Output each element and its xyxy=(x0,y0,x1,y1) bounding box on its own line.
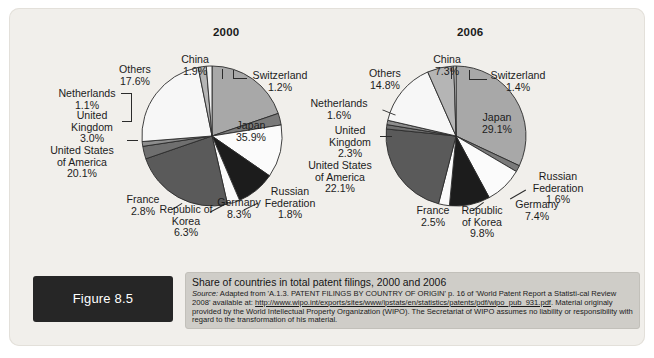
label-others-2006: Others 14.8% xyxy=(355,68,415,91)
figure-label-box: Figure 8.5 xyxy=(33,276,173,322)
source-prefix: Source: xyxy=(192,289,218,298)
label-switzerland-2000: Switzerland 1.2% xyxy=(241,70,319,93)
figure-panel: 2000 xyxy=(9,8,645,346)
label-japan-2006: Japan 29.1% xyxy=(471,112,523,135)
leader-switzerland-2000-v xyxy=(233,70,234,79)
label-others-2000: Others 17.6% xyxy=(105,64,165,87)
label-republic-of-korea-2000: Republic of Korea 6.3% xyxy=(155,204,217,239)
label-russian-federation-2006: Russian Federation 1.6% xyxy=(525,171,591,206)
label-japan-2000: Japan 35.9% xyxy=(225,120,277,143)
label-netherlands-2000: Netherlands 1.1% xyxy=(45,88,129,111)
label-china-2000: China 1.9% xyxy=(169,54,221,77)
label-united-kingdom-2006: United Kingdom 2.3% xyxy=(319,125,381,160)
label-united-kingdom-2000: United Kingdom 3.0% xyxy=(61,110,123,145)
label-united-states-2006: United States of America 22.1% xyxy=(297,160,383,195)
chart-title-2006: 2006 xyxy=(457,26,483,38)
caption-title: Share of countries in total patent filin… xyxy=(192,277,633,289)
label-republic-of-korea-2006: Republic of Korea 9.8% xyxy=(453,205,511,240)
label-france-2006: France 2.5% xyxy=(407,205,459,228)
label-netherlands-2006: Netherlands 1.6% xyxy=(297,98,381,121)
figure-label-text: Figure 8.5 xyxy=(33,291,173,306)
chart-title-2000: 2000 xyxy=(213,26,239,38)
caption-source: Source: Adapted from 'A.1.3. PATENT FILI… xyxy=(192,290,633,325)
leader-uk-2006 xyxy=(380,136,392,137)
leader-netherlands-2000-v xyxy=(131,93,132,121)
label-switzerland-2006: Switzerland 1.4% xyxy=(479,70,557,93)
label-china-2006: China 7.3% xyxy=(421,54,473,77)
leader-usa-2000 xyxy=(127,140,138,141)
figure-page: 2000 xyxy=(0,0,654,358)
label-united-states-2000: United States of America 20.1% xyxy=(39,145,125,180)
source-url[interactable]: http://www.wipo.int/exports/sites/www/ip… xyxy=(255,298,551,307)
source-text-1: Adapted from 'A.1.3. PATENT FILINGS BY C… xyxy=(218,289,579,298)
leader-uk-2000 xyxy=(122,121,132,122)
caption-box: Share of countries in total patent filin… xyxy=(185,272,640,329)
leader-china-2000 xyxy=(222,69,223,79)
